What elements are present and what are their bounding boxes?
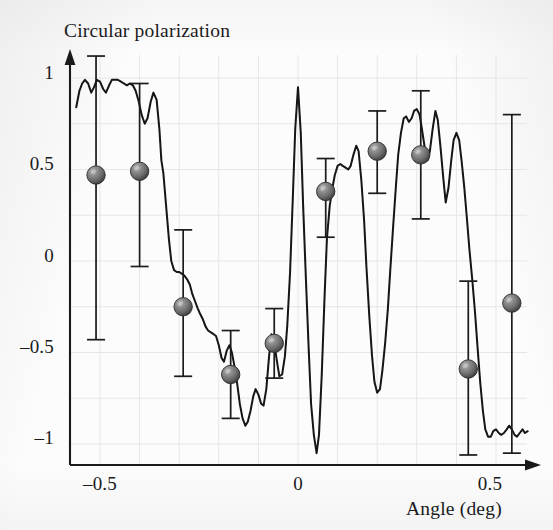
figure-container: Circular polarization 1 0.5 0 –0.5 –1 –0… — [0, 0, 553, 530]
data-point-marker — [221, 365, 239, 383]
y-tick-label-minus1: –1 — [16, 427, 54, 449]
gridlines — [70, 55, 527, 465]
data-point-marker — [459, 360, 477, 378]
y-tick-label-0point5: 0.5 — [10, 153, 54, 175]
x-tick-label-0point5: 0.5 — [456, 473, 524, 495]
data-point-marker — [265, 334, 283, 352]
error-bars — [87, 56, 521, 455]
data-point-marker — [87, 166, 105, 184]
data-point-marker — [412, 146, 430, 164]
x-axis-label: Angle (deg) — [406, 498, 502, 520]
y-axis-arrowhead — [65, 49, 76, 65]
y-tick-label-0: 0 — [24, 245, 54, 267]
plot-svg — [0, 0, 553, 530]
data-point-marker — [130, 162, 148, 180]
data-point-marker — [317, 182, 335, 200]
error-bar — [87, 56, 105, 340]
y-tick-label-minus0point5: –0.5 — [2, 336, 54, 358]
error-bar — [503, 115, 521, 454]
x-tick-label-0: 0 — [274, 473, 322, 495]
x-axis-arrowhead — [525, 460, 541, 471]
data-point-marker — [174, 298, 192, 316]
y-tick-label-1: 1 — [24, 62, 54, 84]
data-point-marker — [368, 142, 386, 160]
x-tick-label-minus0point5: –0.5 — [64, 473, 136, 495]
data-point-marker — [503, 294, 521, 312]
plot-title: Circular polarization — [64, 20, 230, 42]
